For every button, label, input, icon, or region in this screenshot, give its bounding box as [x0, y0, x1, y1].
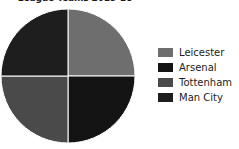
- pie-svg: [1, 9, 135, 143]
- legend-item-man-city[interactable]: Man City: [158, 90, 239, 105]
- legend-item-tottenham[interactable]: Tottenham: [158, 75, 239, 90]
- legend-label-tottenham: Tottenham: [179, 77, 232, 88]
- chart-legend: Leicester Arsenal Tottenham Man City: [158, 45, 239, 105]
- chart-title: League Teams 2015-16: [0, 0, 150, 4]
- pie-slice-man-city[interactable]: [1, 9, 68, 76]
- legend-item-leicester[interactable]: Leicester: [158, 45, 239, 60]
- legend-swatch-arsenal: [158, 63, 173, 72]
- legend-swatch-leicester: [158, 48, 173, 57]
- legend-label-arsenal: Arsenal: [179, 62, 217, 73]
- legend-swatch-man-city: [158, 93, 173, 102]
- legend-label-leicester: Leicester: [179, 47, 224, 58]
- pie-slice-tottenham[interactable]: [1, 76, 68, 143]
- legend-item-arsenal[interactable]: Arsenal: [158, 60, 239, 75]
- legend-label-man-city: Man City: [179, 92, 223, 103]
- pie-plot-area: [1, 9, 135, 143]
- legend-swatch-tottenham: [158, 78, 173, 87]
- pie-chart-figure: League Teams 2015-16 Leicester Arsenal T…: [0, 0, 239, 149]
- pie-slice-arsenal[interactable]: [68, 76, 135, 143]
- pie-slice-leicester[interactable]: [68, 9, 135, 76]
